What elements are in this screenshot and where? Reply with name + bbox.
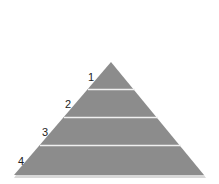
pyramid-graphic (0, 0, 219, 184)
level-label-3: 3 (42, 127, 48, 138)
pyramid-body (14, 62, 204, 175)
level-label-2: 2 (65, 99, 71, 110)
pyramid-shadow (14, 175, 206, 178)
pyramid-diagram: 1 2 3 4 (0, 0, 219, 184)
level-label-1: 1 (88, 72, 94, 83)
level-label-4: 4 (18, 156, 24, 167)
